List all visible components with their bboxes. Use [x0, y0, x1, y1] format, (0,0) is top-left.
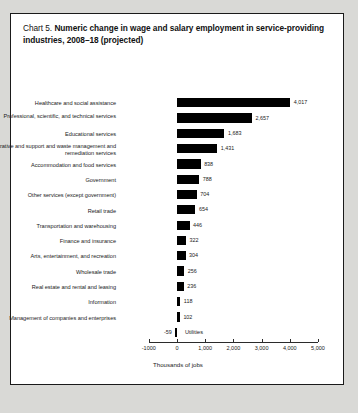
bar-value-label: 838	[204, 161, 213, 167]
bar-rect	[175, 328, 177, 337]
bar-category-label: Management of companies and enterprises	[0, 315, 116, 321]
bar-rect	[177, 98, 290, 107]
bar-rect	[177, 144, 217, 153]
bar-category-label: Educational services	[0, 131, 116, 137]
bar-category-label: Wholesale trade	[0, 269, 116, 275]
bar-value-label: 322	[190, 237, 199, 243]
bar-category-label: Healthcare and social assistance	[0, 100, 116, 106]
bar-row: Educational services1,683	[11, 127, 345, 142]
x-axis-tick	[262, 339, 263, 342]
bar-category-label: Transportation and warehousing	[0, 223, 116, 229]
x-axis-tick-label: 3,000	[255, 345, 269, 351]
bar-rect	[177, 236, 186, 245]
bar-rect	[177, 251, 186, 260]
bar-rect	[177, 129, 224, 138]
bar-category-label: Arts, entertainment, and recreation	[0, 253, 116, 259]
bar-rect	[177, 266, 184, 275]
bar-value-label: 704	[200, 191, 209, 197]
bar-rect	[177, 297, 180, 306]
x-axis-tick	[318, 339, 319, 342]
bar-chart-plot-area: Healthcare and social assistance4,017Pro…	[11, 96, 345, 386]
bar-rect	[177, 282, 184, 291]
bar-row: Information118	[11, 295, 345, 310]
bar-row: Transportation and warehousing446	[11, 218, 345, 233]
x-axis-tick	[205, 339, 206, 342]
bar-rect	[177, 221, 190, 230]
bar-row: Administrative and support and waste man…	[11, 142, 345, 157]
bar-row: Accommodation and food services838	[11, 157, 345, 172]
bar-row: Management of companies and enterprises1…	[11, 310, 345, 325]
bar-rect	[177, 175, 199, 184]
bar-rect	[177, 205, 195, 214]
bar-rect	[177, 159, 201, 168]
x-axis-tick	[233, 339, 234, 342]
bar-category-label: Finance and insurance	[0, 238, 116, 244]
bar-category-label-utilities: Utilities	[185, 329, 203, 335]
bar-value-label: 4,017	[294, 99, 308, 105]
bar-rect	[177, 312, 180, 321]
x-axis-tick-label: -1000	[142, 345, 156, 351]
bar-category-label: Information	[0, 299, 116, 305]
x-axis-tick-label: 1,000	[198, 345, 212, 351]
x-axis-tick-label: 4,000	[283, 345, 297, 351]
bar-value-label: 788	[203, 176, 212, 182]
chart-title: Chart 5. Numeric change in wage and sala…	[23, 23, 329, 46]
bar-row: Wholesale trade256	[11, 264, 345, 279]
x-axis-tick-label: 5,000	[311, 345, 325, 351]
chart-figure-frame: Chart 5. Numeric change in wage and sala…	[10, 13, 344, 385]
bar-value-label: 102	[183, 314, 192, 320]
bar-value-label: 1,431	[221, 145, 235, 151]
bar-value-label: 654	[199, 206, 208, 212]
bar-row: Finance and insurance322	[11, 234, 345, 249]
chart-title-prefix: Chart 5.	[23, 23, 52, 33]
bar-category-label: Real estate and rental and leasing	[0, 284, 116, 290]
bar-row: Retail trade654	[11, 203, 345, 218]
bar-row: Professional, scientific, and technical …	[11, 111, 345, 126]
bar-row: Other services (except government)704	[11, 188, 345, 203]
bar-category-label: Government	[0, 177, 116, 183]
bar-value-label: 1,683	[228, 130, 242, 136]
bar-row: Arts, entertainment, and recreation304	[11, 249, 345, 264]
bar-value-label: 304	[189, 252, 198, 258]
x-axis-line	[149, 342, 318, 343]
x-axis-tick-label: 2,000	[227, 345, 241, 351]
x-axis-tick-label: 0	[175, 345, 178, 351]
bar-value-label: 236	[187, 283, 196, 289]
bar-value-label: 446	[193, 222, 202, 228]
bar-row: Healthcare and social assistance4,017	[11, 96, 345, 111]
bar-category-label: Administrative and support and waste man…	[0, 143, 116, 156]
chart-title-main: Numeric change in wage and salary employ…	[23, 23, 324, 45]
bar-category-label: Professional, scientific, and technical …	[0, 113, 116, 119]
bar-value-label: -59	[11, 329, 172, 335]
bar-value-label: 118	[184, 298, 193, 304]
bar-category-label: Retail trade	[0, 208, 116, 214]
bar-value-label: 2,657	[255, 115, 269, 121]
x-axis-tick	[149, 339, 150, 342]
bar-category-label: Accommodation and food services	[0, 162, 116, 168]
bar-rect	[177, 190, 197, 199]
bar-category-label: Other services (except government)	[0, 192, 116, 198]
bar-row: Government788	[11, 173, 345, 188]
bar-rect	[177, 113, 252, 122]
x-axis-title: Thousands of jobs	[11, 361, 345, 368]
bar-row: Utilities-59	[11, 326, 345, 341]
bar-value-label: 256	[188, 268, 197, 274]
x-axis-tick	[177, 339, 178, 342]
bar-row: Real estate and rental and leasing236	[11, 280, 345, 295]
x-axis-tick	[290, 339, 291, 342]
